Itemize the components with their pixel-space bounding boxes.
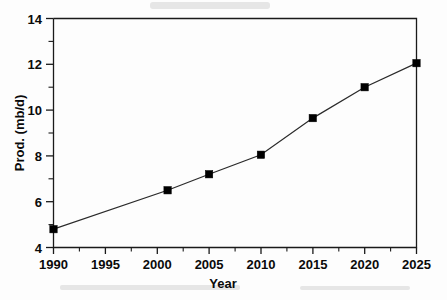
y-axis-title: Prod. (mb/d) [12,95,27,172]
y-axis-ticks [46,19,54,248]
y-tick-labels: 14 12 10 8 6 4 [28,12,43,256]
plot-frame [54,19,417,248]
x-tick-label: 2005 [195,257,224,272]
x-tick-label: 1990 [39,257,68,272]
y-tick-label: 4 [35,241,43,256]
data-point [205,171,212,178]
data-point [361,84,368,91]
figure-container: 14 12 10 8 6 4 1990 1995 2000 2005 2010 … [0,0,447,300]
y-tick-label: 14 [28,12,43,27]
x-axis-title: Year [209,276,236,291]
data-point [257,151,264,158]
y-tick-label: 10 [28,103,42,118]
x-axis-ticks [54,248,417,255]
x-tick-label: 1995 [91,257,120,272]
x-tick-label: 2025 [402,257,431,272]
data-point [50,225,57,232]
y-tick-label: 8 [35,149,42,164]
production-line-chart: 14 12 10 8 6 4 1990 1995 2000 2005 2010 … [0,0,447,300]
data-point [309,114,316,121]
scan-artifacts [60,2,410,290]
data-point [164,187,171,194]
x-tick-labels: 1990 1995 2000 2005 2010 2015 2020 2025 [39,257,431,272]
x-tick-label: 2020 [350,257,379,272]
x-tick-label: 2010 [247,257,276,272]
x-tick-label: 2000 [143,257,172,272]
data-series-production [50,59,420,232]
y-tick-label: 6 [35,195,42,210]
y-tick-label: 12 [28,57,42,72]
series-markers [50,59,420,232]
data-point [413,59,420,66]
x-tick-label: 2015 [298,257,327,272]
